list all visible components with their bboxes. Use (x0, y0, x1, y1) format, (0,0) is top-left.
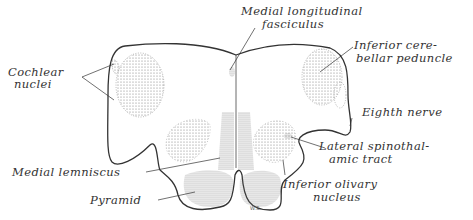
artist-signature: W.S. (250, 205, 261, 211)
label-mlf-line1: Medial longitudinal (241, 5, 362, 17)
pyramid-left (184, 170, 233, 207)
label-cochlear-line2: nuclei (14, 78, 52, 90)
label-ion-line2: nucleus (313, 191, 361, 203)
label-pyramid: Pyramid (90, 194, 141, 206)
inferior-cerebellar-peduncle-area (302, 49, 342, 105)
label-lst-line1: Lateral spinothal- (319, 140, 430, 152)
pyramid-right (240, 171, 282, 207)
label-medial-lemniscus: Medial lemniscus (12, 166, 120, 178)
label-eighth-nerve: Eighth nerve (362, 106, 442, 118)
olivary-nucleus-right (253, 121, 295, 163)
label-ion-line1: Inferior olivary (283, 178, 377, 190)
medial-lemniscus-area (218, 112, 234, 170)
label-icp-line1: Inferior cere- (354, 39, 437, 51)
cochlear-nucleus-dorsal (116, 53, 164, 117)
label-mlf-line2: fasciculus (262, 18, 324, 30)
mlf-area (229, 67, 235, 77)
olivary-nucleus-left (166, 119, 210, 162)
cochlear-nucleus-ventral (112, 60, 119, 74)
diagram-canvas: Medial longitudinal fasciculus Cochlear … (0, 0, 473, 220)
label-lst-line2: amic tract (329, 153, 393, 165)
lateral-spinothalamic-area (284, 133, 292, 139)
label-icp-line2: bellar peduncle (356, 52, 453, 64)
